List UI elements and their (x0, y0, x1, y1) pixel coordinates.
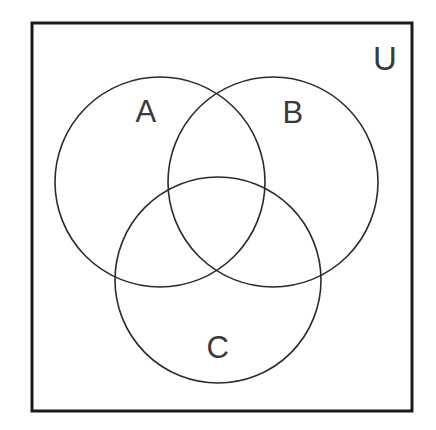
venn-diagram-canvas: U A B C (0, 0, 436, 430)
set-b-label: B (282, 95, 303, 130)
set-c-label: C (207, 330, 230, 365)
set-a-label: A (135, 94, 156, 129)
universal-set-label: U (373, 40, 397, 77)
venn-diagram-svg: U A B C (0, 0, 436, 430)
